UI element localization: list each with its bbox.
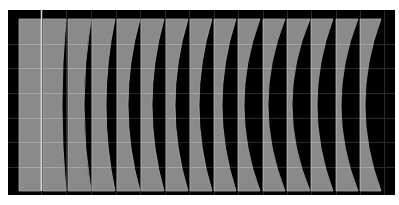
concave-strips-diagram xyxy=(0,0,399,205)
diagram-stage xyxy=(0,0,399,205)
